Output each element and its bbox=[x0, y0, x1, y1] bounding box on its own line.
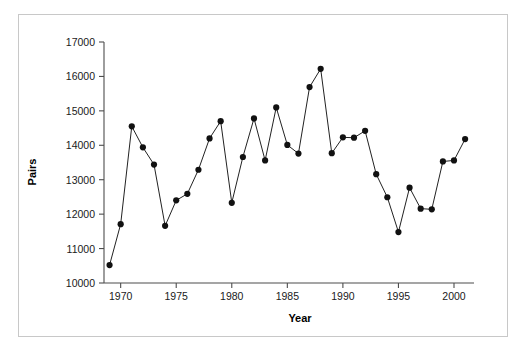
data-point bbox=[229, 200, 235, 206]
data-point bbox=[184, 191, 190, 197]
data-point bbox=[284, 142, 290, 148]
data-point bbox=[140, 144, 146, 150]
y-tick-label: 17000 bbox=[66, 36, 95, 48]
data-point bbox=[418, 206, 424, 212]
data-point bbox=[295, 150, 301, 156]
data-point bbox=[206, 135, 212, 141]
y-tick-label: 13000 bbox=[66, 174, 95, 186]
data-point bbox=[173, 197, 179, 203]
data-point bbox=[151, 161, 157, 167]
x-axis-title: Year bbox=[288, 312, 312, 324]
y-tick-label: 14000 bbox=[66, 139, 95, 151]
y-tick-label: 12000 bbox=[66, 208, 95, 220]
data-point bbox=[340, 134, 346, 140]
data-point bbox=[306, 84, 312, 90]
data-point bbox=[162, 223, 168, 229]
data-point bbox=[240, 154, 246, 160]
y-axis-ticks: 1000011000120001300014000150001600017000 bbox=[66, 36, 104, 289]
data-point bbox=[129, 123, 135, 129]
axis-lines bbox=[104, 42, 474, 283]
chart-container: Pairs Year 10000110001200013000140001500… bbox=[0, 0, 528, 354]
data-point bbox=[251, 115, 257, 121]
data-point bbox=[362, 128, 368, 134]
data-point bbox=[384, 194, 390, 200]
data-point bbox=[406, 185, 412, 191]
y-axis-title: Pairs bbox=[26, 159, 38, 186]
y-tick-label: 15000 bbox=[66, 105, 95, 117]
data-point bbox=[218, 118, 224, 124]
data-point bbox=[395, 229, 401, 235]
x-tick-label: 1970 bbox=[109, 290, 133, 302]
x-tick-label: 1975 bbox=[165, 290, 189, 302]
x-tick-label: 2000 bbox=[442, 290, 466, 302]
data-point bbox=[462, 136, 468, 142]
data-point bbox=[429, 206, 435, 212]
x-tick-label: 1980 bbox=[220, 290, 244, 302]
data-point bbox=[451, 157, 457, 163]
data-point bbox=[440, 158, 446, 164]
x-tick-label: 1985 bbox=[276, 290, 300, 302]
data-point bbox=[351, 135, 357, 141]
y-tick-label: 16000 bbox=[66, 70, 95, 82]
data-point bbox=[195, 167, 201, 173]
x-tick-label: 1995 bbox=[387, 290, 411, 302]
x-axis-ticks: 1970197519801985199019952000 bbox=[109, 283, 466, 302]
data-point bbox=[329, 150, 335, 156]
y-tick-label: 11000 bbox=[67, 243, 96, 255]
data-point bbox=[273, 104, 279, 110]
y-tick-label: 10000 bbox=[66, 277, 95, 289]
data-point-markers bbox=[106, 66, 468, 268]
data-point bbox=[373, 171, 379, 177]
data-series-line bbox=[110, 69, 466, 265]
x-tick-label: 1990 bbox=[331, 290, 355, 302]
data-point bbox=[118, 221, 124, 227]
data-point bbox=[106, 262, 112, 268]
data-point bbox=[262, 157, 268, 163]
data-point bbox=[318, 66, 324, 72]
line-chart: Pairs Year 10000110001200013000140001500… bbox=[0, 0, 528, 354]
